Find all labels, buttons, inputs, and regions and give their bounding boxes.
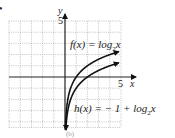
f-label-var: x <box>116 38 121 50</box>
f-label-name: f(x) = log <box>70 38 112 50</box>
h-label-name: h(x) = − 1 + log <box>74 102 147 114</box>
bullet: • <box>0 4 3 14</box>
caption: (b) <box>66 131 74 138</box>
log-graph <box>0 0 175 138</box>
f-label: f(x) = log2x <box>70 39 121 53</box>
x-tick-5: 5 <box>118 79 123 89</box>
h-label: h(x) = − 1 + log2x <box>74 103 156 117</box>
y-tick-5: 5 <box>58 16 63 26</box>
x-axis-label: x <box>130 79 134 89</box>
h-label-var: x <box>151 102 156 114</box>
